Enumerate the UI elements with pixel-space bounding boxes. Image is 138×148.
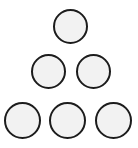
circle-shape xyxy=(4,102,41,139)
circle-shape xyxy=(76,54,111,89)
circle-shape xyxy=(53,9,88,44)
circle-shape xyxy=(31,54,66,89)
circle-shape xyxy=(49,102,86,139)
shape-canvas xyxy=(0,0,138,148)
circle-shape xyxy=(95,102,132,139)
